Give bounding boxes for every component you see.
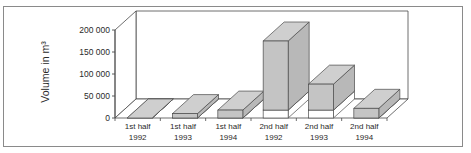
- x-tick-label: 1994: [219, 133, 237, 142]
- bar-front: [354, 108, 379, 118]
- y-tick-label: 50 000: [84, 91, 110, 101]
- y-tick-label: 100 000: [79, 69, 110, 79]
- bar-front: [263, 110, 288, 118]
- chart-3d-bar: 050 000100 000150 000200 000 1st half199…: [0, 0, 471, 153]
- x-tick-label: 1994: [355, 133, 373, 142]
- y-tick-label: 150 000: [79, 47, 110, 57]
- x-tick-label: 1993: [310, 133, 328, 142]
- x-tick-label: 1992: [129, 133, 147, 142]
- x-tick-label: 1st half: [170, 122, 197, 131]
- x-tick-label: 1993: [174, 133, 192, 142]
- bar-front: [173, 114, 198, 118]
- x-tick-label: 1992: [265, 133, 283, 142]
- bar-front: [218, 110, 243, 118]
- x-tick-label: 1st half: [215, 122, 242, 131]
- bar-segment: [263, 22, 309, 110]
- x-tick-label: 2nd half: [350, 122, 379, 131]
- bar-front: [263, 41, 288, 110]
- x-tick-label: 1st half: [125, 122, 152, 131]
- x-axis-labels: 1st half19921st half19931st half19942nd …: [125, 122, 380, 142]
- y-tick-label: 200 000: [79, 25, 110, 35]
- x-tick-label: 2nd half: [305, 122, 334, 131]
- y-tick-label: 0: [105, 113, 110, 123]
- bar-front: [309, 110, 334, 118]
- x-tick-label: 2nd half: [259, 122, 288, 131]
- y-axis-title: Volume in m³: [39, 41, 51, 103]
- bar-front: [309, 84, 334, 110]
